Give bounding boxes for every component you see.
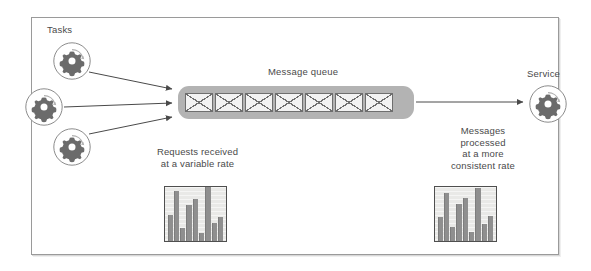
chart-bar: [174, 191, 179, 241]
requests-caption: Requests received at a variable rate: [140, 146, 255, 169]
service-label: Service: [527, 68, 560, 79]
messages-caption-line-3: at a more: [434, 148, 532, 160]
tasks-label: Tasks: [47, 24, 72, 35]
requests-caption-line-2: at a variable rate: [140, 158, 255, 170]
task-node-3[interactable]: [52, 127, 92, 167]
envelope-icon: [335, 93, 363, 112]
envelope-icon: [305, 93, 333, 112]
chart-bar: [463, 198, 468, 241]
task-node-2[interactable]: [24, 87, 64, 127]
service-node[interactable]: [528, 84, 568, 124]
message-queue-label: Message queue: [268, 66, 338, 77]
gear-icon: [24, 87, 64, 127]
gear-icon: [52, 127, 92, 167]
envelope-icon: [185, 93, 213, 112]
envelope-icon: [245, 93, 273, 112]
chart-plot: [165, 187, 226, 241]
chart-bar: [168, 215, 173, 241]
messages-caption-line-1: Messages: [434, 125, 532, 137]
messages-caption-line-2: processed: [434, 137, 532, 149]
envelope-icon: [365, 93, 393, 112]
chart-bar: [488, 216, 493, 241]
chart-bar: [475, 188, 480, 241]
chart-bar: [444, 193, 449, 241]
gear-icon: [52, 41, 92, 81]
message-queue[interactable]: [178, 86, 414, 119]
chart-bar: [438, 217, 443, 241]
chart-bar: [180, 228, 185, 241]
envelope-icon: [275, 93, 303, 112]
messages-processed-chart: [434, 186, 497, 242]
chart-bar: [482, 224, 487, 241]
chart-bar: [199, 233, 204, 241]
chart-bar: [212, 223, 217, 241]
chart-bar: [450, 227, 455, 241]
requests-caption-line-1: Requests received: [140, 146, 255, 158]
chart-bar: [205, 187, 210, 241]
diagram-canvas: Tasks: [0, 0, 591, 271]
chart-plot: [435, 187, 496, 241]
envelope-icon: [215, 93, 243, 112]
chart-bar: [186, 205, 191, 241]
messages-caption-line-4: consistent rate: [434, 160, 532, 172]
task-node-1[interactable]: [52, 41, 92, 81]
chart-bar: [218, 217, 223, 241]
chart-bar: [456, 204, 461, 241]
chart-bar: [469, 232, 474, 241]
messages-caption: Messages processed at a more consistent …: [434, 125, 532, 171]
gear-icon: [528, 84, 568, 124]
chart-bar: [193, 199, 198, 241]
requests-received-chart: [164, 186, 227, 242]
